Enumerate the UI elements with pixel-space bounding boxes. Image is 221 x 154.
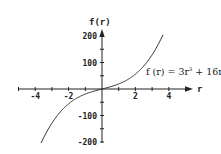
x-tick-label: -2 [64,92,74,101]
x-axis-title: r [197,84,203,94]
function-annotation: f (r) = 3r3 + 16r [146,66,221,77]
x-axis-arrow-icon [185,86,193,91]
y-axis: -200-100100200 f(r) [78,17,111,147]
y-tick-label: 100 [83,59,98,68]
y-tick-label: 200 [83,32,98,41]
x-tick-label: 4 [166,92,171,101]
function-plot: -4-224 r -200-100100200 f(r) f (r) = 3r3… [0,0,221,154]
annotation-prefix: f (r) = 3r [146,66,190,77]
annotation-suffix: + 16r [192,66,221,77]
y-axis-title: f(r) [89,17,111,27]
x-tick-labels: -4-224 [30,92,171,101]
x-tick-label: -4 [30,92,40,101]
x-tick-label: 2 [133,92,138,101]
y-tick-label: -200 [78,138,97,147]
y-tick-label: -100 [78,112,97,121]
